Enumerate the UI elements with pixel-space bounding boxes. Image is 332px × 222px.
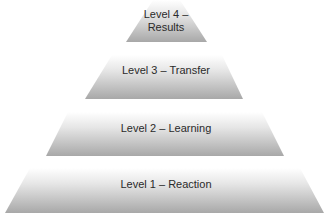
tier-4-label-line1: Level 4 – — [0, 8, 332, 21]
tier-1-label: Level 1 – Reaction — [0, 178, 332, 191]
tier-3-shape — [85, 55, 243, 99]
tier-4-label-line2: Results — [0, 21, 332, 34]
tier-4-label: Level 4 – Results — [0, 8, 332, 34]
tier-3-label: Level 3 – Transfer — [0, 64, 332, 77]
tier-2-label: Level 2 – Learning — [0, 122, 332, 135]
